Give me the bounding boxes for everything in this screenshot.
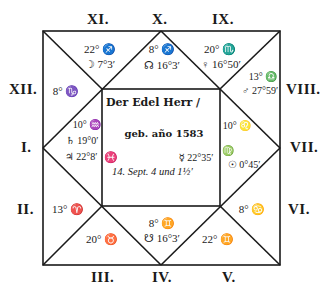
sun-position: ☉ 0°45′	[222, 160, 266, 170]
house-label-iii: III.	[91, 270, 114, 285]
house-iii-cusp: 20° ♉	[84, 234, 120, 245]
house-ix-cusp: 20° ♏	[196, 44, 244, 55]
center-birth-year: geb. año 1583	[114, 129, 214, 139]
virgo-sign: ♍	[221, 146, 235, 156]
house-label-xii: XII.	[9, 82, 37, 97]
house-viii-mars: ♂ 27°59′	[238, 86, 282, 96]
house-v-cusp: 22° ♊	[200, 234, 236, 245]
pisces-sign: ♓	[104, 152, 118, 163]
house-iv-south-node: ☋ 16°3′	[136, 233, 188, 244]
house-label-iv: IV.	[152, 270, 172, 285]
house-label-x: X.	[152, 12, 168, 27]
house-label-v: V.	[222, 270, 236, 285]
center-birth-date: 14. Sept. 4 und 1½′	[112, 167, 220, 178]
house-xi-cusp: 22° ♐	[78, 44, 122, 55]
house-ii-cusp: 13° ♈	[52, 204, 84, 215]
house-label-ix: IX.	[212, 12, 234, 27]
house-xi-moon: ☽ 7°3′	[78, 59, 122, 70]
house-label-i: I.	[21, 140, 32, 155]
house-vi-cusp: 8° ♋	[236, 204, 268, 215]
house-label-viii: VIII.	[286, 82, 321, 97]
mercury-position: ☿ 22°35′	[172, 153, 220, 163]
house-label-xi: XI.	[87, 12, 109, 27]
house-i-jupiter: ♃ 22°8′	[60, 152, 102, 162]
house-vii-cusp: 10° ♌	[222, 121, 252, 131]
house-iv-cusp: 8° ♊	[144, 218, 180, 229]
house-viii-cusp: 13° ♎	[246, 72, 280, 82]
house-label-vi: VI.	[288, 202, 310, 217]
house-label-vii: VII.	[290, 140, 318, 155]
house-i-saturn: ♄ 19°0′	[62, 136, 102, 146]
center-title: Der Edel Herr /	[106, 97, 218, 108]
house-label-ii: II.	[17, 202, 34, 217]
house-xii-cusp: 8° ♑	[52, 86, 80, 97]
house-i-cusp: 10° ♒	[70, 120, 104, 130]
house-x-north-node: ☊ 16°3′	[136, 60, 188, 71]
house-x-cusp: 8° ♐	[140, 44, 184, 55]
house-ix-venus: ♀ 16°50′	[194, 59, 248, 70]
